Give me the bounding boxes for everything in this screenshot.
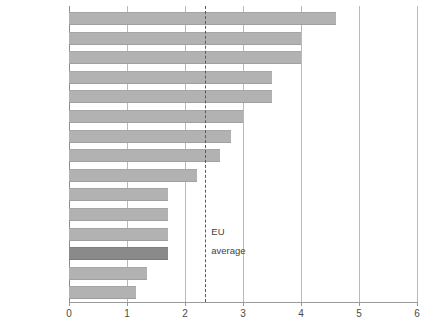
bar-spain [69, 51, 301, 64]
x-tick-2 [185, 302, 186, 306]
x-tick-6 [417, 302, 418, 306]
bar-netherlands [69, 71, 272, 84]
eu-average-label-line1: EU [211, 225, 224, 238]
bar-united-kingdom [69, 247, 168, 260]
x-tick-3 [243, 302, 244, 306]
bar-portugal [69, 32, 301, 45]
bar-row [69, 208, 417, 221]
eu-average-line [205, 6, 206, 302]
x-tick-label-0: 0 [66, 308, 72, 319]
bar-row [69, 169, 417, 182]
x-tick-label-6: 6 [414, 308, 420, 319]
x-tick-label-5: 5 [356, 308, 362, 319]
x-tick-label-2: 2 [182, 308, 188, 319]
bar-row [69, 267, 417, 280]
bar-italy [69, 110, 243, 123]
bar-chart: EUaverage IrelandPortugalSpainNetherland… [0, 0, 443, 327]
bar-greece [69, 90, 272, 103]
bar-row [69, 90, 417, 103]
bar-row [69, 110, 417, 123]
bar-luxembourg [69, 130, 231, 143]
bar-sweden [69, 188, 168, 201]
x-tick-4 [301, 302, 302, 306]
bar-finland [69, 208, 168, 221]
bar-row [69, 130, 417, 143]
bar-row [69, 286, 417, 299]
bar-austria [69, 228, 168, 241]
bar-row [69, 228, 417, 241]
bar-row [69, 188, 417, 201]
bar-row [69, 149, 417, 162]
x-tick-label-4: 4 [298, 308, 304, 319]
eu-average-label-line2: average [211, 244, 245, 257]
plot-area: EUaverage IrelandPortugalSpainNetherland… [69, 6, 417, 302]
bar-row [69, 51, 417, 64]
x-tick-label-3: 3 [240, 308, 246, 319]
bar-row [69, 12, 417, 25]
x-tick-0 [69, 302, 70, 306]
bar-france [69, 169, 197, 182]
bar-denmark [69, 149, 220, 162]
bar-belgium [69, 267, 147, 280]
x-tick-5 [359, 302, 360, 306]
bar-germany [69, 286, 136, 299]
bar-ireland [69, 12, 336, 25]
x-tick-1 [127, 302, 128, 306]
gridline-6 [417, 6, 418, 302]
bar-row [69, 71, 417, 84]
x-tick-label-1: 1 [124, 308, 130, 319]
bar-row [69, 32, 417, 45]
